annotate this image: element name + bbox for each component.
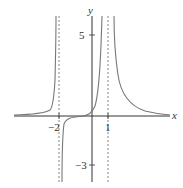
curve-right-branch [114, 16, 170, 115]
x-axis-label: x [171, 109, 177, 121]
x-tick-label-1: 1 [105, 121, 111, 133]
curve-left-branch [14, 16, 56, 115]
y-tick-label-5: 5 [79, 29, 85, 41]
y-tick-label-neg3: −3 [75, 159, 87, 171]
y-axis-label: y [87, 4, 93, 16]
chart-figure: y x 5 −3 −2 1 [0, 0, 183, 188]
x-tick-label-neg2: −2 [48, 121, 60, 133]
